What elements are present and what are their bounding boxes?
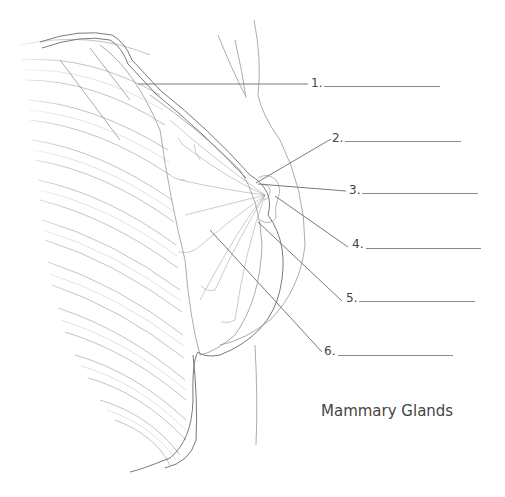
label-5-answer-blank[interactable]: [359, 301, 475, 302]
label-4-number: 4.: [352, 237, 363, 251]
label-6-answer-blank[interactable]: [338, 355, 453, 356]
label-4-answer-blank[interactable]: [366, 248, 481, 249]
label-6-number: 6.: [324, 344, 335, 358]
label-3-answer-blank[interactable]: [362, 193, 478, 194]
label-2-number: 2.: [332, 131, 343, 145]
label-1-answer-blank[interactable]: [324, 86, 440, 87]
label-2-answer-blank[interactable]: [345, 141, 461, 142]
label-5-number: 5.: [346, 291, 357, 305]
diagram-title: Mammary Glands: [321, 402, 453, 420]
label-3-number: 3.: [349, 183, 360, 197]
label-1-number: 1.: [311, 76, 322, 90]
